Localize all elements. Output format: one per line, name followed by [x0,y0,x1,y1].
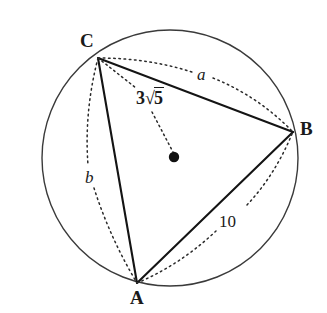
side-label-10: 10 [219,213,236,230]
radius-coefficient: 3 [136,88,145,108]
geometry-canvas [0,0,327,313]
radical-group: √5 [145,88,164,107]
geometry-figure: C B A a b 10 3√5 [0,0,327,313]
side-label-a: a [197,66,206,83]
arc-AB-dotted-lower [137,231,216,283]
radius-length-label: 3√5 [136,88,164,107]
vertex-label-B: B [300,119,313,138]
circle-center-dot [169,152,179,162]
side-label-b: b [85,169,94,186]
vertex-label-C: C [80,31,94,50]
arc-CB-dotted-left [98,58,195,73]
vertex-label-A: A [130,288,144,307]
arc-CA-dotted-upper [87,58,98,165]
radicand-value: 5 [154,87,164,108]
arc-CA-dotted-lower [94,188,137,283]
side-AB [137,132,293,283]
radius-segment-upper [98,58,136,88]
side-CB [98,58,293,132]
side-CA [98,58,137,283]
arc-CB-dotted-right [213,78,293,132]
radius-segment-lower [152,112,173,152]
